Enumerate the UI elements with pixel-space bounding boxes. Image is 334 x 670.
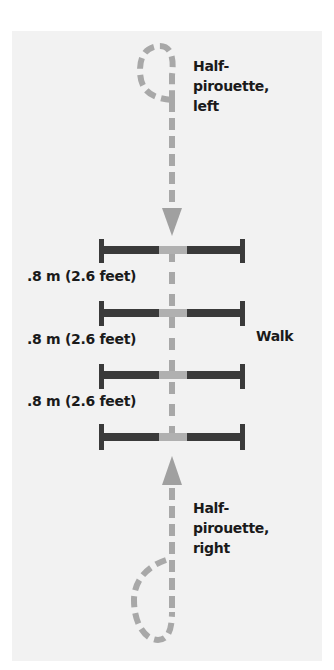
bottom-turn-loop-icon xyxy=(134,560,172,640)
distance-label-3: .8 m (2.6 feet) xyxy=(27,393,136,409)
top-turn-loop-icon xyxy=(140,46,173,100)
arrow-up-icon xyxy=(162,456,182,485)
label-half-pirouette-left: Half- pirouette, left xyxy=(193,56,273,116)
label-half-pirouette-right: Half- pirouette, right xyxy=(193,498,273,558)
distance-label-1: .8 m (2.6 feet) xyxy=(27,268,136,284)
label-walk: Walk xyxy=(256,326,293,346)
distance-label-2: .8 m (2.6 feet) xyxy=(27,331,136,347)
arrow-down-icon xyxy=(162,208,182,236)
